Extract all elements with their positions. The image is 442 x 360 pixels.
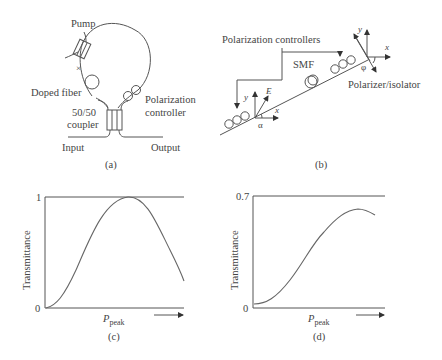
pc-left-3 <box>241 112 249 120</box>
x-axis-label: Ppeak <box>307 313 330 327</box>
pc-pointer-right <box>282 52 340 56</box>
coupler-50-50 <box>107 110 122 130</box>
transmittance-curve-c <box>46 197 184 308</box>
y-axis-label: Transmittance <box>229 230 240 290</box>
pc-right-2 <box>339 60 347 68</box>
label-coupler-2: coupler <box>67 119 99 130</box>
caption-b: (b) <box>315 159 328 171</box>
label-pump: Pump <box>71 18 96 29</box>
y-tick-top: 1 <box>36 192 41 203</box>
svg-text:α: α <box>258 120 263 130</box>
label-doped-fiber: Doped fiber <box>31 87 82 98</box>
svg-text:y: y <box>243 92 248 102</box>
svg-text:x: x <box>384 42 389 52</box>
y-tick-top: 0.7 <box>236 191 249 202</box>
output-fiber <box>119 130 163 137</box>
caption-a: (a) <box>105 159 117 171</box>
label-polarizer-isolator: Polarizer/isolator <box>348 79 421 90</box>
figure-canvas: × Pump Doped fiber 50/50 coupler Polariz… <box>0 0 442 360</box>
pc-right-1 <box>331 65 339 73</box>
y-axis-label: Transmittance <box>21 230 32 290</box>
pump-coupler <box>73 39 91 59</box>
label-polarization-controllers: Polarization controllers <box>222 34 320 45</box>
panel-b-polarization-diagram: y E x α y x φ Polarization controllers S… <box>220 24 421 171</box>
doped-fiber-coil <box>85 75 99 89</box>
pc-left-1 <box>225 120 233 128</box>
svg-text:φ: φ <box>361 62 366 72</box>
input-fiber <box>68 130 110 137</box>
y-tick-bottom: 0 <box>243 303 248 314</box>
panel-a-fiber-laser-diagram: × Pump Doped fiber 50/50 coupler Polariz… <box>31 18 196 171</box>
transmittance-curve-d <box>254 209 375 304</box>
pc-paddle-1 <box>124 92 133 101</box>
pc-paddle-2 <box>132 86 141 95</box>
svg-text:E: E <box>265 86 272 96</box>
smf-coil <box>305 76 317 88</box>
fiber-loop <box>80 23 150 108</box>
svg-text:×: × <box>76 63 81 73</box>
label-coupler-1: 50/50 <box>72 107 96 118</box>
caption-c: (c) <box>108 331 120 343</box>
x-axis-label: Ppeak <box>102 313 125 327</box>
label-output: Output <box>151 142 180 153</box>
label-input: Input <box>62 142 84 153</box>
label-pc-1: Polarization <box>145 94 196 105</box>
pc-left-2 <box>233 116 241 124</box>
fiber-line <box>220 60 368 135</box>
svg-text:x: x <box>274 105 279 115</box>
y-tick-bottom: 0 <box>35 303 40 314</box>
panel-c-transmittance-chart: 1 0 Transmittance Ppeak (c) <box>21 192 184 343</box>
label-pc-2: controller <box>145 107 186 118</box>
caption-d: (d) <box>313 331 326 343</box>
svg-text:y: y <box>357 24 362 34</box>
pc-right-3 <box>347 56 355 64</box>
label-smf: SMF <box>293 59 314 70</box>
panel-d-transmittance-chart: 0.7 0 Transmittance Ppeak (d) <box>229 191 385 343</box>
